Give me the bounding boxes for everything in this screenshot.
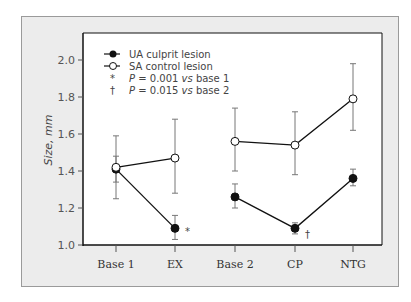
significance-mark: * — [185, 226, 190, 237]
open-circle-marker — [349, 95, 357, 103]
y-tick-label: 1.8 — [58, 91, 76, 104]
filled-circle-icon — [110, 51, 117, 58]
y-axis-title: Size, mm — [42, 114, 55, 165]
filled-circle-marker — [171, 224, 179, 232]
x-tick-label: NTG — [340, 258, 366, 271]
y-tick-label: 1.4 — [58, 165, 76, 178]
x-tick-label: Base 2 — [216, 258, 253, 271]
filled-circle-marker — [349, 174, 357, 182]
filled-circle-marker — [231, 193, 239, 201]
legend-sa: SA control lesion — [129, 61, 213, 72]
significance-mark: † — [305, 229, 310, 240]
y-tick-label: 2.0 — [58, 54, 76, 67]
y-tick-label: 1.2 — [58, 202, 76, 215]
legend-dagger-text: P = 0.015 vs base 2 — [129, 85, 229, 96]
legend-star-text: P = 0.001 vs base 1 — [129, 73, 229, 84]
legend-ua: UA culprit lesion — [129, 49, 211, 60]
open-circle-marker — [291, 141, 299, 149]
open-circle-marker — [112, 163, 120, 171]
legend-star-symbol: * — [110, 73, 115, 84]
y-tick-label: 1.0 — [58, 239, 76, 252]
open-circle-marker — [171, 154, 179, 162]
open-circle-icon — [110, 63, 117, 70]
legend-dagger-symbol: † — [110, 85, 115, 96]
x-tick-label: CP — [287, 258, 303, 271]
filled-circle-marker — [291, 224, 299, 232]
x-tick-label: EX — [167, 258, 183, 271]
x-tick-label: Base 1 — [97, 258, 134, 271]
open-circle-marker — [231, 137, 239, 145]
y-tick-label: 1.6 — [58, 128, 76, 141]
line-chart: 1.01.21.41.61.82.0Base 1EXBase 2CPNTG *†… — [0, 0, 411, 302]
